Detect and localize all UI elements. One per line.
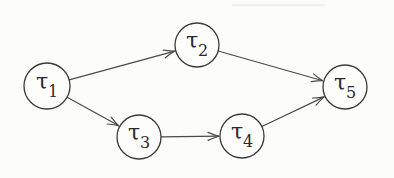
node-subscript: 4 bbox=[243, 132, 253, 151]
edge-t1-to-t3 bbox=[67, 97, 119, 126]
node-label: τ bbox=[231, 119, 243, 144]
arrowhead-icon bbox=[107, 117, 119, 126]
node-t1: τ1 bbox=[24, 63, 70, 109]
node-label: τ bbox=[36, 69, 48, 94]
node-subscript: 2 bbox=[198, 41, 208, 60]
nodes: τ1τ2τ3τ4τ5 bbox=[24, 23, 367, 159]
edge-line bbox=[161, 136, 219, 137]
node-t4: τ4 bbox=[220, 114, 264, 158]
diagram-canvas: ▔▔▔▔▔▔▔▔ τ1τ2τ3τ4τ5 bbox=[0, 0, 394, 178]
edge-line bbox=[218, 51, 323, 81]
edge-line bbox=[67, 97, 119, 126]
node-label: τ bbox=[186, 28, 198, 53]
node-label: τ bbox=[128, 120, 140, 145]
edge-line bbox=[262, 97, 324, 127]
edge-t4-to-t5 bbox=[262, 97, 324, 127]
node-t2: τ2 bbox=[175, 23, 219, 67]
edge-t3-to-t4 bbox=[161, 132, 219, 140]
node-subscript: 1 bbox=[48, 82, 58, 101]
node-t3: τ3 bbox=[117, 115, 161, 159]
edge-t1-to-t2 bbox=[69, 50, 175, 80]
edge-t2-to-t5 bbox=[218, 51, 323, 82]
edge-line bbox=[69, 51, 175, 80]
task-graph: τ1τ2τ3τ4τ5 bbox=[0, 0, 394, 178]
node-subscript: 3 bbox=[140, 133, 150, 152]
node-subscript: 5 bbox=[346, 83, 356, 102]
node-label: τ bbox=[334, 70, 346, 95]
node-t5: τ5 bbox=[323, 65, 367, 109]
